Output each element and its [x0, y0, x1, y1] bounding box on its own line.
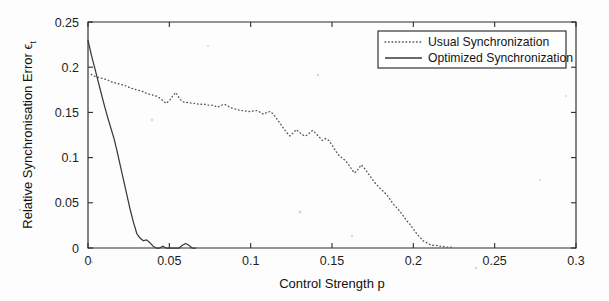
svg-text:Relative Synchronisation Error: Relative Synchronisation Error ϵt — [20, 41, 38, 229]
y-tick-label: 0.25 — [55, 16, 79, 30]
x-axis-title: Control Strength p — [279, 276, 385, 291]
x-tick-labels: 00.050.10.150.20.250.3 — [85, 254, 585, 268]
y-tick-label: 0.2 — [62, 61, 79, 75]
x-tick-label: 0 — [85, 254, 92, 268]
y-tick-label: 0 — [72, 242, 79, 256]
y-tick-label: 0.15 — [55, 106, 79, 120]
x-tick-label: 0.15 — [320, 254, 344, 268]
y-tick-label: 0.05 — [55, 196, 79, 210]
y-axis-title: Relative Synchronisation Error ϵt — [20, 41, 38, 229]
figure-canvas: 00.050.10.150.20.250.3 00.050.10.150.20.… — [0, 0, 609, 301]
series-usual — [91, 74, 452, 247]
x-tick-label: 0.1 — [242, 254, 259, 268]
y-tick-labels: 00.050.10.150.20.25 — [55, 16, 79, 256]
chart-legend[interactable]: Usual SynchronizationOptimized Synchroni… — [378, 31, 573, 68]
legend-label: Optimized Synchronization — [428, 51, 573, 65]
x-tick-label: 0.25 — [482, 254, 506, 268]
x-tick-label: 0.2 — [405, 254, 422, 268]
chart-svg: 00.050.10.150.20.250.3 00.050.10.150.20.… — [0, 0, 609, 301]
y-axis-symbol-subscript: t — [28, 41, 38, 44]
series-optimized — [88, 40, 195, 248]
x-tick-label: 0.3 — [567, 254, 584, 268]
x-tick-label: 0.05 — [157, 254, 181, 268]
legend-label: Usual Synchronization — [428, 35, 549, 49]
y-tick-label: 0.1 — [62, 151, 79, 165]
data-series — [88, 40, 452, 248]
